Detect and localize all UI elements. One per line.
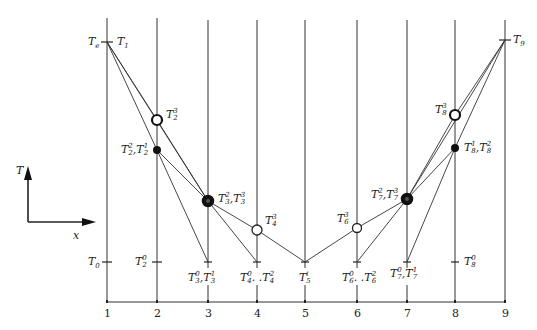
- label-T6-3: T36: [336, 212, 350, 226]
- x-tick-1: 1: [104, 308, 111, 319]
- label-T2-21: T22,T12: [120, 143, 149, 157]
- diagram-canvas: Te T0 T x T1 T9 T32 T22,T12 T02 T23,T33 …: [0, 0, 537, 330]
- filled-dot-T8-12: [451, 144, 459, 152]
- label-T7-23: T27,T37: [370, 188, 399, 202]
- x-tick-7: 7: [404, 308, 411, 319]
- label-T2-3: T32: [165, 108, 179, 122]
- label-T8-0: T08: [463, 255, 477, 269]
- label-T5-i: Ti5: [298, 271, 312, 285]
- label-T0: T0: [87, 256, 101, 270]
- label-Te: Te: [87, 36, 101, 50]
- label-T2-0: T02: [134, 255, 148, 269]
- cross-ticks: [101, 40, 511, 262]
- label-T3-01: T03,T13: [187, 271, 216, 285]
- label-T3-23: T23,T33: [217, 192, 246, 206]
- filled-dot-T2-21: [153, 146, 161, 154]
- label-T8-12: T18,T28: [463, 141, 492, 155]
- open-circle-T8-3: [450, 110, 460, 120]
- x-tick-8: 8: [452, 308, 459, 319]
- label-T4-02: T04. .T24: [239, 271, 275, 285]
- label-T8-3: T38: [434, 103, 448, 117]
- arrow-right-icon: [82, 218, 96, 226]
- x-tick-6: 6: [354, 308, 361, 319]
- label-T7-01: T07,T17: [389, 267, 418, 281]
- label-T9: T9: [512, 34, 526, 48]
- markers: [152, 110, 460, 235]
- label-T4-3: T34: [264, 214, 278, 228]
- x-tick-5: 5: [302, 308, 309, 319]
- x-tick-9: 9: [502, 308, 509, 319]
- axis-label-x: x: [72, 230, 80, 241]
- axis-label-T: T: [15, 165, 24, 176]
- x-tick-3: 3: [205, 308, 212, 319]
- x-tick-2: 2: [154, 308, 161, 319]
- iteration-lines: [107, 40, 505, 262]
- label-T1: T1: [116, 36, 130, 50]
- label-T6-02: T06. .T26: [341, 271, 377, 285]
- open-circle-T4-3: [252, 225, 262, 235]
- arrow-up-icon: [24, 166, 32, 180]
- axis-indicator: [24, 166, 96, 226]
- x-tick-4: 4: [254, 308, 261, 319]
- open-circle-T2-3: [152, 115, 162, 125]
- open-circle-T6-3: [353, 224, 362, 233]
